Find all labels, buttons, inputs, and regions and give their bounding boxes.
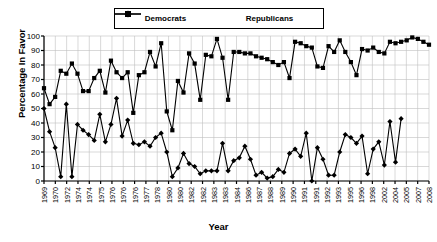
- data-point-marker: [204, 53, 208, 57]
- data-point-marker: [114, 70, 118, 74]
- x-tick-label: 1995: [346, 187, 355, 203]
- data-point-marker: [109, 59, 113, 63]
- y-axis-ticks: 0102030405060708090100: [27, 32, 44, 186]
- data-point-marker: [226, 168, 231, 173]
- x-tick-label: 1976: [131, 187, 140, 203]
- data-point-marker: [176, 79, 180, 83]
- x-tick-label: 1990: [289, 187, 298, 203]
- data-point-marker: [120, 133, 125, 138]
- data-point-marker: [58, 174, 63, 179]
- data-point-marker: [399, 40, 403, 44]
- data-point-marker: [125, 118, 130, 123]
- y-tick-label: 40: [31, 119, 40, 128]
- chart-plot-area: 0102030405060708090100 19691970197219741…: [0, 0, 437, 242]
- data-point-marker: [103, 90, 107, 94]
- data-point-marker: [366, 48, 370, 52]
- data-point-marker: [131, 111, 135, 115]
- data-point-marker: [231, 158, 236, 163]
- data-point-marker: [126, 70, 130, 74]
- data-point-marker: [265, 57, 269, 61]
- data-point-marker: [92, 76, 96, 80]
- data-point-marker: [209, 168, 214, 173]
- data-point-marker: [315, 64, 319, 68]
- data-point-marker: [377, 50, 381, 54]
- data-point-marker: [338, 38, 342, 42]
- data-point-marker: [170, 128, 174, 132]
- data-point-marker: [103, 139, 108, 144]
- data-point-marker: [248, 157, 253, 162]
- data-point-marker: [421, 40, 425, 44]
- data-point-marker: [75, 72, 79, 76]
- x-tick-label: 2004: [391, 187, 400, 203]
- data-point-marker: [382, 162, 387, 167]
- x-tick-label: 1975: [97, 187, 106, 203]
- x-tick-label: 2005: [402, 187, 411, 203]
- data-point-marker: [47, 129, 52, 134]
- y-tick-label: 30: [31, 133, 40, 142]
- x-tick-label: 1987: [255, 187, 264, 203]
- data-point-marker: [237, 155, 242, 160]
- x-tick-label: 1976: [119, 187, 128, 203]
- data-point-marker: [254, 54, 258, 58]
- data-point-marker: [69, 174, 74, 179]
- x-tick-label: 1970: [51, 187, 60, 203]
- x-tick-label: 1978: [153, 187, 162, 203]
- data-point-marker: [282, 60, 286, 64]
- data-point-marker: [321, 66, 325, 70]
- data-point-marker: [209, 54, 213, 58]
- data-point-marker: [64, 72, 68, 76]
- data-point-marker: [220, 141, 225, 146]
- x-tick-label: 1988: [266, 187, 275, 203]
- x-tick-label: 1991: [312, 187, 321, 203]
- data-point-marker: [98, 69, 102, 73]
- x-tick-label: 1996: [357, 187, 366, 203]
- x-axis-ticks: 1969197019721974197419751976197619761977…: [40, 181, 434, 203]
- data-point-marker: [59, 69, 63, 73]
- data-point-marker: [248, 51, 252, 55]
- data-point-marker: [181, 151, 186, 156]
- x-tick-label: 1992: [323, 187, 332, 203]
- data-point-marker: [299, 41, 303, 45]
- x-tick-label: 1977: [142, 187, 151, 203]
- data-point-marker: [108, 122, 113, 127]
- y-tick-label: 70: [31, 75, 40, 84]
- x-tick-label: 1991: [300, 187, 309, 203]
- data-point-marker: [365, 171, 370, 176]
- data-point-marker: [287, 76, 291, 80]
- data-point-marker: [382, 51, 386, 55]
- x-tick-label: 1980: [165, 187, 174, 203]
- data-point-marker: [332, 173, 337, 178]
- y-tick-label: 60: [31, 90, 40, 99]
- data-point-marker: [142, 70, 146, 74]
- data-point-marker: [186, 161, 191, 166]
- y-tick-label: 50: [31, 104, 40, 113]
- x-tick-label: 1993: [334, 187, 343, 203]
- data-point-marker: [337, 149, 342, 154]
- data-point-marker: [360, 47, 364, 51]
- data-point-marker: [388, 40, 392, 44]
- data-point-marker: [393, 160, 398, 165]
- data-point-marker: [293, 40, 297, 44]
- data-point-marker: [243, 51, 247, 55]
- data-point-marker: [349, 60, 353, 64]
- data-point-marker: [114, 96, 119, 101]
- x-tick-label: 1972: [63, 187, 72, 203]
- x-tick-label: 1982: [199, 187, 208, 203]
- x-tick-label: 1984: [233, 187, 242, 203]
- data-point-marker: [226, 98, 230, 102]
- data-point-marker: [253, 173, 258, 178]
- data-point-marker: [148, 50, 152, 54]
- data-point-marker: [242, 144, 247, 149]
- data-point-marker: [193, 61, 197, 65]
- data-point-marker: [181, 90, 185, 94]
- x-tick-label: 1983: [210, 187, 219, 203]
- data-point-marker: [136, 142, 141, 147]
- x-tick-label: 1969: [40, 187, 49, 203]
- x-tick-label: 1980: [176, 187, 185, 203]
- x-tick-label: 1986: [244, 187, 253, 203]
- x-tick-label: 1976: [108, 187, 117, 203]
- data-point-marker: [131, 141, 136, 146]
- x-tick-label: 2002: [380, 187, 389, 203]
- x-tick-label: 1974: [74, 187, 83, 203]
- data-point-marker: [304, 44, 308, 48]
